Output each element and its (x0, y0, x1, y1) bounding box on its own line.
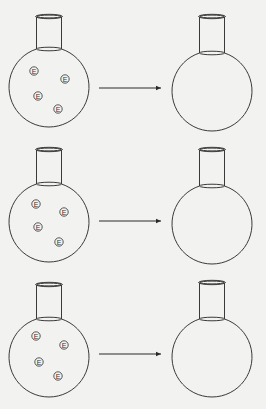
particle-label: E (57, 239, 62, 246)
reaction-row-2: EEEE (9, 147, 252, 264)
particle-e: E (34, 223, 42, 231)
flask-neck-base (200, 184, 225, 188)
particle-e: E (61, 75, 69, 83)
reaction-row-1: EEEE (9, 14, 252, 131)
flask-rim-inner (200, 148, 224, 151)
flask-neck-base (37, 47, 62, 51)
flask-neck-base (200, 51, 225, 55)
right-flask-empty (172, 147, 252, 264)
particle-label: E (32, 68, 37, 75)
reaction-row-3: EEEE (9, 280, 252, 397)
particle-e: E (60, 208, 68, 216)
particle-e: E (35, 358, 43, 366)
particle-label: E (56, 106, 61, 113)
flask-neck-base (37, 317, 62, 321)
particle-label: E (62, 342, 67, 349)
particle-label: E (34, 333, 39, 340)
particle-label: E (62, 209, 67, 216)
flask-neck-base (37, 182, 62, 186)
particle-label: E (34, 201, 39, 208)
particle-e: E (32, 200, 40, 208)
flask-neck-base (200, 317, 225, 321)
flask-rim-inner (200, 15, 224, 18)
flask-bulb (172, 53, 252, 131)
flask-bulb (172, 186, 252, 264)
flask-diagram: EEEEEEEEEEEE (0, 0, 266, 409)
particle-e: E (55, 238, 63, 246)
particle-e: E (54, 372, 62, 380)
particle-label: E (56, 373, 61, 380)
particle-e: E (60, 341, 68, 349)
flask-bulb (9, 319, 89, 397)
left-flask-with-particles: EEEE (9, 14, 89, 127)
flask-rim-inner (37, 283, 61, 286)
flask-rim-inner (37, 148, 61, 151)
flask-bulb (9, 184, 89, 262)
flask-rim-inner (200, 281, 224, 284)
particle-label: E (63, 76, 68, 83)
flask-rim-inner (37, 15, 61, 18)
particle-e: E (32, 332, 40, 340)
particle-label: E (37, 359, 42, 366)
particle-label: E (36, 224, 41, 231)
flask-bulb (172, 319, 252, 397)
particle-e: E (30, 67, 38, 75)
flask-bulb (9, 49, 89, 127)
particle-e: E (54, 105, 62, 113)
right-flask-empty (172, 14, 252, 131)
particle-e: E (34, 92, 42, 100)
right-flask-empty (172, 280, 252, 397)
left-flask-with-particles: EEEE (9, 282, 89, 397)
left-flask-with-particles: EEEE (9, 147, 89, 262)
particle-label: E (36, 93, 41, 100)
